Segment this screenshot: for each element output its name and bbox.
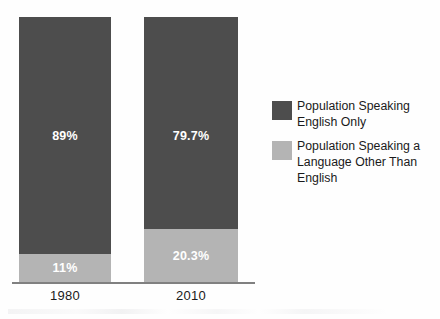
- bar-stack-2010: 79.7% 20.3%: [144, 17, 238, 283]
- bar-segment-other-language-1980[interactable]: 11%: [19, 254, 111, 283]
- plot-area: 89% 11% 79.7% 20.3% 1980 2010: [0, 0, 270, 319]
- bar-group-2010: 79.7% 20.3%: [144, 17, 238, 283]
- bar-segment-english-only-1980[interactable]: 89%: [19, 17, 111, 254]
- bar-label-other-language-1980: 11%: [19, 262, 111, 275]
- legend-label-english-only: Population Speaking English Only: [297, 98, 437, 130]
- bar-label-english-only-2010: 79.7%: [144, 130, 238, 143]
- bar-label-english-only-1980: 89%: [19, 130, 111, 143]
- legend-swatch-other-language: [272, 141, 292, 160]
- legend-label-other-language: Population Speaking a Language Other Tha…: [297, 138, 437, 186]
- bar-label-other-language-2010: 20.3%: [144, 250, 238, 263]
- x-axis-tick-2010: 2010: [144, 288, 238, 303]
- legend-item-english-only[interactable]: Population Speaking English Only: [272, 98, 440, 130]
- bar-segment-other-language-2010[interactable]: 20.3%: [144, 229, 238, 283]
- x-axis-line: [12, 282, 255, 284]
- legend-swatch-english-only: [272, 101, 292, 120]
- legend-item-other-language[interactable]: Population Speaking a Language Other Tha…: [272, 138, 440, 186]
- x-axis-tick-1980: 1980: [19, 288, 111, 303]
- bar-stack-1980: 89% 11%: [19, 17, 111, 283]
- chart-legend: Population Speaking English Only Populat…: [272, 98, 440, 194]
- bar-segment-english-only-2010[interactable]: 79.7%: [144, 17, 238, 229]
- bar-group-1980: 89% 11%: [19, 17, 111, 283]
- chart-canvas: 89% 11% 79.7% 20.3% 1980 2010: [0, 0, 440, 319]
